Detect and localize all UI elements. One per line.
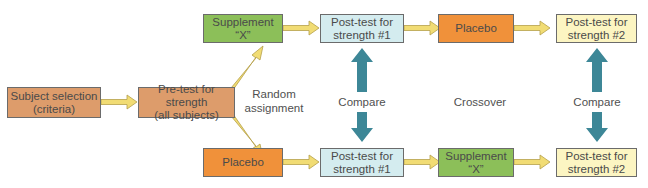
compare-label-2: Compare	[567, 95, 627, 109]
box-text: Placebo	[222, 156, 264, 169]
box-text: (all subjects)	[154, 109, 219, 122]
box-text: Post-test for	[331, 150, 393, 163]
random-assignment-label: Random assignment	[244, 87, 304, 115]
bottom-posttest2-box: Post-test for strength #2	[556, 148, 637, 177]
bottom-supplement-box: Supplement “X”	[438, 148, 514, 177]
compare-label-1: Compare	[332, 95, 392, 109]
subject-selection-box: Subject selection (criteria)	[7, 87, 101, 118]
box-text: Post-test for	[331, 16, 393, 29]
random-up-arrow-icon	[231, 46, 263, 90]
bottom-posttest1-box: Post-test for strength #1	[320, 148, 404, 177]
box-text: Subject selection	[11, 90, 98, 103]
pretest-box: Pre-test for strength (all subjects)	[138, 87, 235, 118]
box-text: Supplement “X”	[439, 150, 513, 176]
box-text: Placebo	[455, 22, 497, 35]
label-line: Random	[244, 87, 304, 101]
flow-arrow-icon	[404, 155, 440, 169]
box-text: Post-test for	[566, 150, 628, 163]
box-text: Post-test for	[566, 16, 628, 29]
flow-arrow-icon	[514, 155, 550, 169]
flow-arrow-icon	[404, 21, 440, 35]
flow-arrow-icon	[283, 155, 319, 169]
top-posttest2-box: Post-test for strength #2	[556, 14, 637, 43]
bottom-placebo-box: Placebo	[203, 148, 283, 177]
box-text: strength #1	[333, 29, 391, 42]
top-placebo-box: Placebo	[438, 14, 514, 43]
flow-arrow-icon	[101, 95, 137, 109]
box-text: Supplement “X”	[204, 16, 282, 42]
box-text: Pre-test for strength	[139, 83, 234, 109]
top-posttest1-box: Post-test for strength #1	[320, 14, 404, 43]
label-line: assignment	[244, 101, 304, 115]
flow-arrow-icon	[514, 21, 550, 35]
crossover-label: Crossover	[448, 95, 512, 109]
top-supplement-box: Supplement “X”	[203, 14, 283, 43]
box-text: strength #2	[568, 163, 626, 176]
flow-arrow-icon	[283, 21, 319, 35]
box-text: strength #1	[333, 163, 391, 176]
box-text: (criteria)	[33, 103, 75, 116]
box-text: strength #2	[568, 29, 626, 42]
